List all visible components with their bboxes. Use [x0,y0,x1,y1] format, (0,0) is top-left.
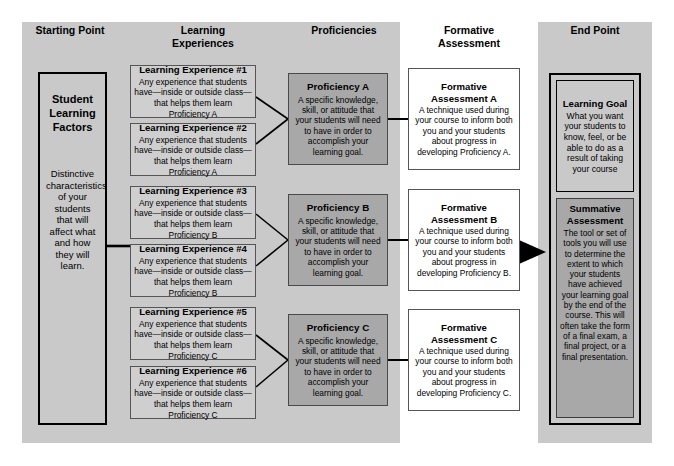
formative-assessment-box-c[interactable]: Formative Assessment C A technique used … [408,309,520,411]
column-header-end-point: End Point [538,24,652,37]
column-header-le-line2: Experiences [172,37,234,49]
le4-body: Any experience that students have—inside… [134,256,252,298]
proficiency-c-title: Proficiency C [294,322,382,335]
proficiency-box-c[interactable]: Proficiency C A specific knowledge, skil… [288,314,388,406]
learning-experience-box-5[interactable]: Learning Experience #5 Any experience th… [130,307,256,360]
fa-b-title-line2: Assessment B [431,214,497,225]
le6-title: Learning Experience #6 [134,365,252,377]
le4-title: Learning Experience #4 [134,243,252,255]
fa-a-title: Formative Assessment A [413,81,515,105]
learning-experience-box-2[interactable]: Learning Experience #2 Any experience th… [130,123,256,176]
slf-body: Distinctive characteristics of your stud… [46,168,99,272]
sa-title-line2: Assessment [567,215,624,226]
fa-c-title: Formative Assessment C [413,322,515,346]
column-header-end-point-label: End Point [571,24,620,36]
learning-goal-box[interactable]: Learning Goal What you want your student… [556,80,634,192]
fa-b-title-line1: Formative [441,202,487,213]
column-header-fa-line1: Formative [444,24,494,36]
le2-title: Learning Experience #2 [134,122,252,134]
fa-a-body: A technique used during your course to i… [413,105,515,158]
column-header-fa-line2: Assessment [438,37,500,49]
formative-assessment-box-a[interactable]: Formative Assessment A A technique used … [408,68,520,170]
learning-experience-box-6[interactable]: Learning Experience #6 Any experience th… [130,366,256,419]
learning-experience-box-4[interactable]: Learning Experience #4 Any experience th… [130,244,256,297]
le5-title: Learning Experience #5 [134,306,252,318]
learning-goal-body: What you want your students to know, fee… [560,111,630,175]
slf-title: Student Learning Factors [46,92,99,134]
fa-b-body: A technique used during your course to i… [413,226,515,279]
proficiency-c-body: A specific knowledge, skill, or attitude… [294,336,382,398]
summative-assessment-body: The tool or set of tools you will use to… [560,228,630,362]
summative-assessment-box[interactable]: Summative Assessment The tool or set of … [556,198,634,418]
column-header-proficiencies: Proficiencies [288,24,400,37]
sa-title-line1: Summative [569,203,620,214]
column-header-proficiencies-label: Proficiencies [311,24,376,36]
fa-c-title-line1: Formative [441,322,487,333]
le3-body: Any experience that students have—inside… [134,198,252,240]
proficiency-box-b[interactable]: Proficiency B A specific knowledge, skil… [288,194,388,286]
le5-body: Any experience that students have—inside… [134,319,252,361]
student-learning-factors-box[interactable]: Student Learning Factors Distinctive cha… [38,72,107,425]
le3-title: Learning Experience #3 [134,185,252,197]
le2-body: Any experience that students have—inside… [134,135,252,177]
le1-body: Any experience that students have—inside… [134,77,252,119]
le1-title: Learning Experience #1 [134,64,252,76]
learning-goal-title: Learning Goal [560,98,630,110]
fa-c-body: A technique used during your course to i… [413,346,515,399]
column-header-formative-assessment: Formative Assessment [406,24,532,49]
slf-title-line1: Student [52,93,93,105]
fa-c-title-line2: Assessment C [431,334,497,345]
column-header-starting-point-label: Starting Point [36,24,105,36]
summative-assessment-title: Summative Assessment [560,203,630,227]
slf-title-line3: Factors [53,121,93,133]
le6-body: Any experience that students have—inside… [134,378,252,420]
fa-a-title-line1: Formative [441,81,487,92]
proficiency-box-a[interactable]: Proficiency A A specific knowledge, skil… [288,73,388,165]
column-header-starting-point: Starting Point [22,24,118,37]
proficiency-a-body: A specific knowledge, skill, or attitude… [294,95,382,157]
proficiency-a-title: Proficiency A [294,81,382,94]
proficiency-b-title: Proficiency B [294,202,382,215]
formative-assessment-box-b[interactable]: Formative Assessment B A technique used … [408,189,520,291]
column-header-learning-experiences: Learning Experiences [133,24,273,49]
column-header-le-line1: Learning [181,24,225,36]
proficiency-b-body: A specific knowledge, skill, or attitude… [294,216,382,278]
learning-experience-box-3[interactable]: Learning Experience #3 Any experience th… [130,186,256,239]
fa-b-title: Formative Assessment B [413,202,515,226]
fa-a-title-line2: Assessment A [431,93,497,104]
diagram-canvas: Starting Point Learning Experiences Prof… [0,0,674,466]
learning-experience-box-1[interactable]: Learning Experience #1 Any experience th… [130,65,256,118]
slf-title-line2: Learning [49,107,95,119]
